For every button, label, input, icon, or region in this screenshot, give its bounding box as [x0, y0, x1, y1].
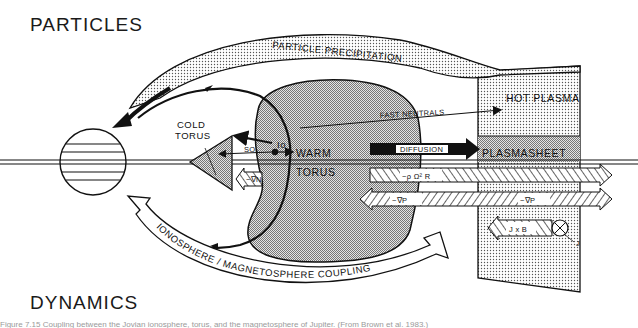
- label-density-gradient: −∇N: [246, 175, 262, 184]
- label-plasmasheet: PLASMASHEET: [482, 147, 566, 159]
- figure-stage: PARTICLES DYNAMICS: [0, 0, 638, 328]
- label-pressure-gradient-left: −∇P: [392, 196, 407, 205]
- label-warm: WARM: [296, 147, 331, 159]
- label-current-j: J: [576, 239, 580, 248]
- magnetosphere-diagram: PARTICLE PRECIPITATION HOT PLASMA FAST N…: [0, 0, 638, 328]
- label-hot-plasma: HOT PLASMA: [506, 92, 580, 104]
- figure-caption: Figure 7.15 Coupling between the Jovian …: [0, 319, 638, 328]
- label-diffusion: DIFFUSION: [400, 145, 443, 154]
- jupiter-planet: [60, 129, 126, 195]
- label-j-cross-b: J x B: [509, 225, 527, 234]
- label-pressure-gradient-right: −∇P: [520, 196, 535, 205]
- label-io: Io: [277, 139, 286, 150]
- label-torus: TORUS: [296, 166, 336, 178]
- precipitation-arrowhead-icon: [112, 112, 132, 128]
- label-cold-torus-line1: COLD: [177, 119, 205, 130]
- label-so2: SO₂: [244, 145, 259, 154]
- label-centrifugal: −ρ Ω² R: [402, 172, 431, 181]
- label-cold-torus-line2: TORUS: [175, 130, 211, 141]
